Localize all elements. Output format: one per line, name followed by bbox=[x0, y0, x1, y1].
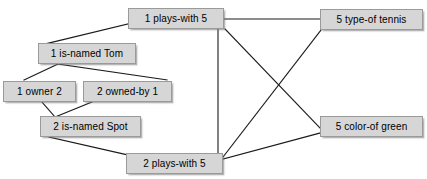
node-label-plays_with_1: 1 plays-with 5 bbox=[143, 14, 210, 24]
edge-plays_with_2-to-color_of_green bbox=[223, 133, 320, 159]
node-owner[interactable]: 1 owner 2 bbox=[3, 81, 76, 102]
node-owned_by[interactable]: 2 owned-by 1 bbox=[83, 81, 172, 102]
node-plays_with_2[interactable]: 2 plays-with 5 bbox=[126, 153, 223, 174]
node-label-is_named_spot: 2 is-named Spot bbox=[51, 122, 129, 132]
node-label-owned_by: 2 owned-by 1 bbox=[95, 87, 160, 97]
edge-plays_with_2-to-type_of_tennis bbox=[223, 30, 321, 157]
edge-plays_with_1-to-is_named_tom bbox=[45, 24, 128, 44]
edge-is_named_spot-to-plays_with_2 bbox=[49, 137, 128, 155]
node-plays_with_1[interactable]: 1 plays-with 5 bbox=[128, 8, 224, 29]
edge-is_named_tom-to-owned_by bbox=[58, 64, 167, 80]
node-color_of_green[interactable]: 5 color-of green bbox=[320, 116, 423, 137]
node-label-plays_with_2: 2 plays-with 5 bbox=[141, 159, 208, 169]
semantic-network-diagram: 1 plays-with 55 type-of tennis1 is-named… bbox=[0, 0, 427, 179]
node-label-owner: 1 owner 2 bbox=[15, 87, 64, 97]
node-label-type_of_tennis: 5 type-of tennis bbox=[335, 15, 409, 25]
edge-owner-to-is_named_spot bbox=[42, 102, 55, 117]
node-is_named_spot[interactable]: 2 is-named Spot bbox=[40, 116, 141, 137]
node-is_named_tom[interactable]: 1 is-named Tom bbox=[38, 43, 136, 64]
edge-plays_with_1-to-color_of_green bbox=[225, 29, 320, 128]
edge-owned_by-to-is_named_spot bbox=[55, 102, 92, 117]
edge-is_named_tom-to-owner bbox=[24, 64, 58, 80]
node-type_of_tennis[interactable]: 5 type-of tennis bbox=[320, 9, 423, 30]
node-label-color_of_green: 5 color-of green bbox=[334, 122, 410, 132]
node-label-is_named_tom: 1 is-named Tom bbox=[49, 49, 125, 59]
